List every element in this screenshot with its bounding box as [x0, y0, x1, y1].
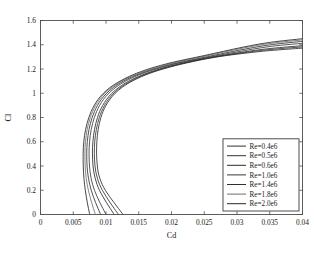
x-tick-label: 0.035	[261, 218, 278, 227]
x-tick-label: 0.015	[130, 218, 147, 227]
x-tick-label: 0	[39, 218, 43, 227]
axis-titles: Cd Cl	[4, 113, 176, 240]
y-axis-tick-labels: 00.20.40.60.811.21.41.6	[27, 16, 37, 219]
x-axis-tick-labels: 00.0050.010.0150.020.0250.030.0350.04	[39, 218, 310, 227]
x-tick-label: 0.02	[165, 218, 178, 227]
y-tick-label: 1.6	[27, 16, 37, 25]
legend-item-label: Re=0.6e6	[250, 162, 278, 170]
y-tick-label: 0.2	[27, 186, 37, 195]
x-tick-label: 0.025	[196, 218, 213, 227]
legend: Re=0.4e6Re=0.5e6Re=0.6e6Re=1.0e6Re=1.4e6…	[223, 139, 299, 211]
legend-item-label: Re=2.0e6	[250, 200, 278, 208]
chart-canvas: 00.0050.010.0150.020.0250.030.0350.04 00…	[0, 0, 314, 258]
y-axis-title: Cl	[4, 113, 13, 121]
x-tick-label: 0.01	[100, 218, 113, 227]
legend-item-label: Re=0.4e6	[250, 143, 278, 151]
drag-polar-figure: 00.0050.010.0150.020.0250.030.0350.04 00…	[0, 0, 314, 258]
y-tick-label: 0.8	[27, 113, 37, 122]
x-axis-title: Cd	[167, 231, 177, 240]
legend-item-label: Re=1.4e6	[250, 181, 278, 189]
x-tick-label: 0.005	[65, 218, 82, 227]
y-tick-label: 0	[32, 210, 36, 219]
x-tick-label: 0.03	[231, 218, 244, 227]
y-tick-label: 1	[32, 89, 36, 98]
x-tick-label: 0.04	[296, 218, 309, 227]
legend-item-label: Re=1.0e6	[250, 172, 278, 180]
y-tick-label: 0.6	[27, 137, 37, 146]
y-tick-label: 0.4	[27, 162, 37, 171]
legend-item-label: Re=0.5e6	[250, 152, 278, 160]
y-tick-label: 1.4	[27, 40, 37, 49]
legend-item-label: Re=1.8e6	[250, 191, 278, 199]
y-tick-label: 1.2	[27, 65, 37, 74]
